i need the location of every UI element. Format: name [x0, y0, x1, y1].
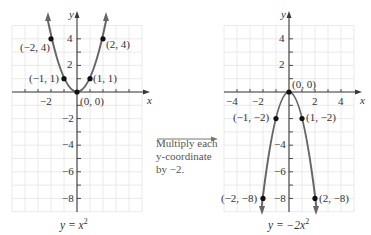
left-curve-arrow-icon: [103, 12, 109, 21]
right-y-tick-label: −8: [274, 192, 286, 204]
right-x-tick-label: −4: [226, 95, 238, 107]
left-y-tick-label: −8: [62, 192, 74, 204]
left-y-axis-arrow-icon: [75, 11, 80, 18]
left-x-tick-label: −2: [40, 95, 52, 107]
right-x-tick-label: 2: [312, 95, 318, 107]
left-equation-caption: y = x2: [59, 217, 88, 232]
right-point-2-neg8: [312, 196, 317, 201]
right-y-axis-label: y: [280, 8, 286, 20]
transform-note-line: Multiply each: [156, 137, 236, 150]
right-curve-arrow-icon: [313, 206, 319, 215]
right-graph: x y −4 −2 2 4 4 2 −4 −6 −8 (−2, −8) (−1,…: [221, 8, 365, 232]
left-point-label: (1, 1): [93, 72, 117, 85]
right-x-tick-label: −2: [252, 95, 264, 107]
left-point-2-4: [100, 36, 105, 41]
right-equation-caption: y = −2x2: [267, 217, 309, 232]
left-point-neg1-1: [61, 76, 66, 81]
right-point-neg1-neg2: [273, 116, 278, 121]
transform-note-line: y-coordinate: [156, 150, 236, 163]
right-point-1-neg2: [299, 116, 304, 121]
left-graph: x y −2 4 2 −2 −4 −6 −8 (−2, 4) (−1, 1) (…: [12, 8, 152, 232]
right-point-label: (−2, −8): [221, 192, 258, 205]
right-point-label: (1, −2): [306, 111, 336, 124]
right-y-axis-arrow-icon: [287, 11, 292, 18]
right-y-tick-label: −4: [274, 138, 286, 150]
left-point-origin: [74, 89, 79, 94]
right-point-label: (2, −8): [319, 192, 349, 205]
left-point-label: (−2, 4): [20, 41, 50, 54]
transform-note: Multiply each y-coordinate by −2.: [156, 137, 236, 176]
left-y-axis-label: y: [68, 8, 74, 20]
right-y-tick-label: 2: [279, 58, 285, 70]
right-point-neg2-neg8: [260, 196, 265, 201]
right-curve-arrow-icon: [259, 206, 265, 215]
right-x-axis-label: x: [359, 94, 365, 106]
left-y-tick-label: 2: [67, 58, 73, 70]
transform-note-line: by −2.: [156, 163, 236, 176]
figure-canvas: x y −2 4 2 −2 −4 −6 −8 (−2, 4) (−1, 1) (…: [0, 0, 371, 235]
right-y-tick-label: 4: [279, 32, 285, 44]
left-point-label: (−1, 1): [29, 72, 59, 85]
left-y-tick-label: −2: [62, 112, 74, 124]
right-point-label: (−1, −2): [233, 111, 270, 124]
right-point-label: (0, 0): [292, 78, 316, 91]
left-y-tick-label: 4: [67, 32, 73, 44]
left-y-tick-label: −6: [62, 165, 74, 177]
left-point-label: (2, 4): [106, 38, 130, 51]
left-point-1-1: [87, 76, 92, 81]
right-y-tick-label: −6: [274, 165, 286, 177]
left-y-tick-label: −4: [62, 138, 74, 150]
left-x-axis-label: x: [146, 94, 152, 106]
right-point-origin: [286, 89, 291, 94]
right-x-tick-label: 4: [338, 95, 344, 107]
left-curve-arrow-icon: [45, 12, 51, 21]
left-point-label: (0, 0): [80, 95, 104, 108]
